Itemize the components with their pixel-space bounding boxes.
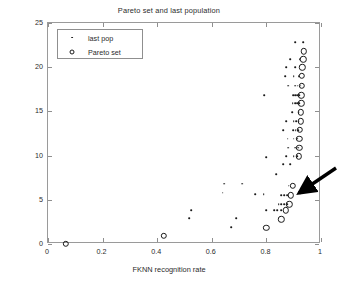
y-axis-tick <box>315 111 319 112</box>
population-point <box>236 218 238 220</box>
population-point <box>284 203 286 205</box>
population-point <box>231 226 233 228</box>
y-axis-tick <box>315 244 319 245</box>
population-point <box>294 85 296 87</box>
x-axis-tick <box>212 238 213 242</box>
pareto-point <box>288 192 294 198</box>
population-point <box>293 138 295 140</box>
figure: Pareto set and last population Number of… <box>0 0 338 281</box>
population-point <box>283 129 285 131</box>
population-point <box>293 156 295 158</box>
x-axis-tick <box>266 238 267 242</box>
population-point <box>222 192 224 194</box>
y-axis-tick <box>48 111 52 112</box>
x-tick-label: 0.2 <box>87 247 117 256</box>
x-tick-label: 0.4 <box>141 247 171 256</box>
pareto-point <box>299 83 305 89</box>
population-point <box>223 183 225 185</box>
dot-marker-icon <box>71 37 73 39</box>
x-axis-tick <box>103 238 104 242</box>
x-axis-tick <box>103 23 104 27</box>
legend-item-pareto-set: Pareto set <box>58 45 144 58</box>
y-tick-label: 10 <box>17 150 43 159</box>
population-point <box>284 75 286 77</box>
population-point <box>284 195 286 197</box>
pareto-point <box>263 225 269 231</box>
y-tick-label: 20 <box>17 62 43 71</box>
pareto-point <box>299 64 305 70</box>
pareto-point <box>296 136 302 142</box>
y-axis-tick <box>315 200 319 201</box>
population-point <box>292 111 294 113</box>
population-point <box>294 42 296 44</box>
population-point <box>281 203 283 205</box>
y-axis-tick <box>315 67 319 68</box>
pareto-point <box>300 56 306 62</box>
population-point <box>281 195 283 197</box>
population-point <box>287 147 289 149</box>
legend-label: Pareto set <box>88 47 121 56</box>
population-point <box>293 120 295 122</box>
population-point <box>266 210 268 212</box>
page-title: Pareto set and last population <box>0 6 338 15</box>
x-tick-label: 0.6 <box>196 247 226 256</box>
pareto-point <box>299 73 305 79</box>
pareto-point <box>289 182 295 188</box>
population-point <box>294 66 296 68</box>
population-point <box>290 164 292 166</box>
x-tick-label: 0 <box>32 247 62 256</box>
x-axis-tick <box>266 23 267 27</box>
x-axis-tick <box>212 23 213 27</box>
population-point <box>266 157 268 159</box>
y-tick-label: 15 <box>17 106 43 115</box>
y-axis-tick <box>48 67 52 68</box>
population-point <box>285 156 287 158</box>
pareto-point <box>297 127 303 133</box>
y-axis-tick <box>48 244 52 245</box>
population-point <box>302 42 304 44</box>
population-point <box>292 129 294 131</box>
population-point <box>292 103 294 105</box>
population-point <box>287 85 289 87</box>
pareto-point <box>161 232 167 238</box>
y-axis-tick <box>48 200 52 201</box>
population-point <box>283 164 285 166</box>
legend-item-last-pop: last pop <box>58 31 144 44</box>
population-point <box>290 58 292 60</box>
x-axis-title: FKNN recognition rate <box>132 265 205 274</box>
x-axis-tick <box>321 238 322 242</box>
legend: last pop Pareto set <box>57 29 143 59</box>
y-axis-tick <box>315 23 319 24</box>
population-point <box>293 75 295 77</box>
pareto-point <box>301 48 307 54</box>
y-tick-label: 25 <box>17 18 43 27</box>
population-point <box>278 203 280 205</box>
pareto-point <box>298 100 304 106</box>
population-point <box>285 120 287 122</box>
pareto-point <box>295 153 301 159</box>
population-point <box>275 173 277 175</box>
pareto-point <box>297 109 303 115</box>
pareto-point <box>63 241 69 247</box>
y-tick-label: 5 <box>17 194 43 203</box>
population-point <box>263 95 265 97</box>
pareto-point <box>296 144 302 150</box>
x-axis-tick <box>157 238 158 242</box>
pareto-point <box>286 201 292 207</box>
pareto-point <box>298 92 304 98</box>
y-axis-tick <box>315 156 319 157</box>
pareto-point <box>297 118 303 124</box>
x-tick-label: 0.8 <box>250 247 280 256</box>
x-tick-label: 1 <box>305 247 335 256</box>
pareto-point <box>283 207 289 213</box>
x-axis-tick <box>321 23 322 27</box>
x-axis-tick <box>157 23 158 27</box>
population-point <box>287 138 289 140</box>
population-point <box>263 194 265 196</box>
x-axis-tick <box>48 23 49 27</box>
y-axis-tick <box>48 156 52 157</box>
circle-marker-icon <box>70 49 75 54</box>
plot-area: last pop Pareto set <box>47 22 320 243</box>
population-point <box>242 183 244 185</box>
population-point <box>285 66 287 68</box>
